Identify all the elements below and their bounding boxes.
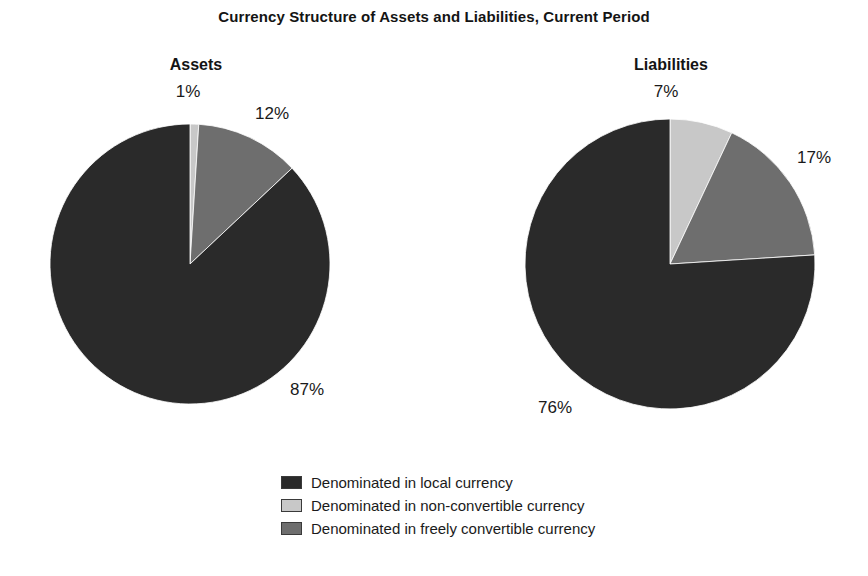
- assets-label-non-convertible: 1%: [162, 82, 214, 102]
- legend-swatch-icon: [281, 476, 302, 489]
- legend-item-label: Denominated in freely convertible curren…: [311, 520, 595, 537]
- pie-chart-liabilities: [525, 119, 815, 409]
- liabilities-label-freely-convertible: 17%: [786, 148, 842, 168]
- assets-label-local: 87%: [278, 380, 336, 400]
- legend-item[interactable]: Denominated in freely convertible curren…: [281, 517, 595, 540]
- pie-chart-assets: [50, 124, 330, 404]
- legend-item-label: Denominated in non-convertible currency: [311, 497, 584, 514]
- chart-legend: Denominated in local currencyDenominated…: [281, 471, 595, 540]
- legend-item-label: Denominated in local currency: [311, 474, 513, 491]
- assets-label-freely-convertible: 12%: [244, 104, 300, 124]
- legend-swatch-icon: [281, 522, 302, 535]
- legend-item[interactable]: Denominated in non-convertible currency: [281, 494, 595, 517]
- liabilities-label-non-convertible: 7%: [640, 82, 692, 102]
- liabilities-label-local: 76%: [526, 398, 584, 418]
- figure-canvas: Currency Structure of Assets and Liabili…: [0, 0, 868, 576]
- legend-swatch-icon: [281, 499, 302, 512]
- legend-item[interactable]: Denominated in local currency: [281, 471, 595, 494]
